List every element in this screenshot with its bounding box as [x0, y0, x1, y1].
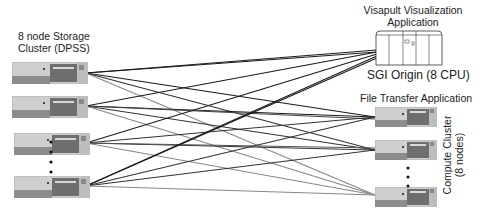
compute-node-icon [375, 107, 437, 127]
storage-title-line2: Cluster (DPSS) [18, 42, 90, 54]
file-transfer-title: File Transfer Application [360, 92, 472, 104]
compute-node-icon [375, 187, 437, 207]
storage-title-line1: 8 node Storage [18, 30, 90, 42]
compute-cluster-title: Compute Cluster (8 nodes) [441, 105, 465, 205]
visualization-title-line1: Visapult Visualization [353, 4, 473, 16]
storage-cluster-title: 8 node Storage Cluster (DPSS) [18, 30, 90, 54]
storage-node-icon [14, 176, 90, 198]
storage-node-icon [12, 62, 88, 84]
sgi-origin-label: SGI Origin (8 CPU) [367, 68, 470, 82]
ellipsis-icon [405, 156, 413, 190]
sgi-origin-icon [374, 30, 444, 66]
compute-title-line2: (8 nodes) [453, 105, 465, 205]
compute-title-line1: Compute Cluster [441, 105, 453, 205]
storage-node-icon [12, 96, 88, 118]
ellipsis-icon [48, 140, 56, 176]
visualization-title: Visapult Visualization Application [353, 4, 473, 28]
visualization-title-line2: Application [353, 16, 473, 28]
